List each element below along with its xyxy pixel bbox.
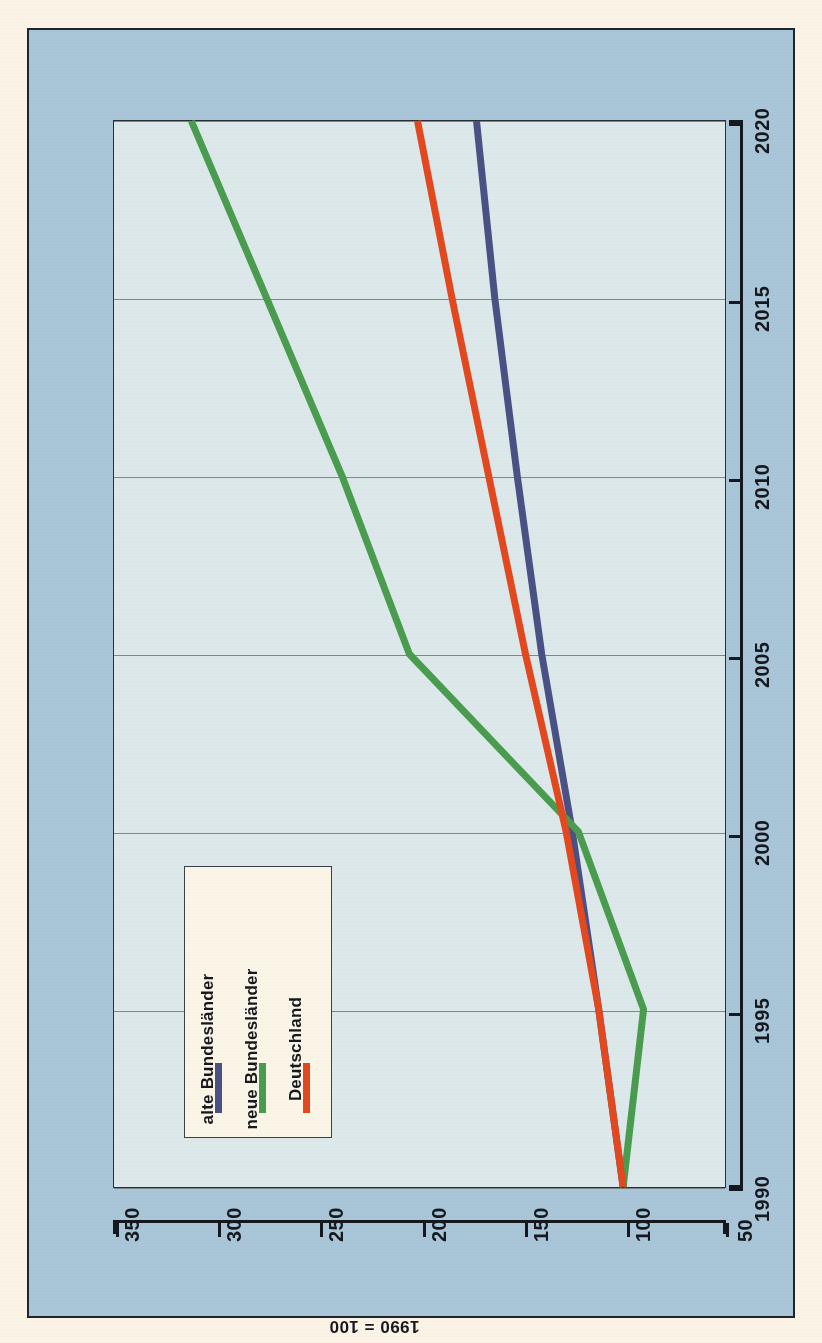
value-axis-tick (525, 1223, 528, 1237)
legend-label: alte Bundesländer (198, 974, 218, 1125)
year-axis-ticklabel: 2000 (751, 820, 774, 867)
value-axis-tick (423, 1223, 426, 1237)
year-axis-tick (729, 835, 743, 838)
value-axis-tick (116, 1223, 119, 1237)
year-axis-ticklabel: 1990 (751, 1176, 774, 1223)
gridline (114, 1188, 725, 1189)
value-axis-ticklabel: 350 (121, 1207, 144, 1242)
legend-item[interactable]: neue Bundesländer (241, 881, 283, 1125)
year-axis-tick (729, 123, 743, 126)
year-axis (729, 120, 743, 1188)
value-axis-tick (320, 1223, 323, 1237)
legend-item[interactable]: alte Bundesländer (197, 881, 239, 1125)
value-axis-tick (627, 1223, 630, 1237)
scanned-page: 35030025020015010050 1990 = 100 19901995… (0, 0, 822, 1343)
value-axis-ticklabel: 150 (530, 1207, 553, 1242)
value-axis-tick (726, 1223, 729, 1237)
year-axis-ticklabel: 2020 (751, 108, 774, 155)
year-axis-ticklabel: 2005 (751, 642, 774, 689)
legend-item[interactable]: Deutschland (285, 881, 327, 1125)
value-axis-title: 1990 = 100 (329, 1316, 420, 1336)
year-axis-tick (729, 301, 743, 304)
year-axis-ticklabel: 2015 (751, 286, 774, 333)
year-axis-ticklabel: 1995 (751, 998, 774, 1045)
value-axis-ticklabel: 250 (325, 1207, 348, 1242)
legend: alte Bundesländerneue BundesländerDeutsc… (184, 866, 332, 1138)
value-axis-ticklabel: 50 (734, 1219, 757, 1242)
value-axis-ticklabel: 100 (632, 1207, 655, 1242)
chart-frame: 35030025020015010050 1990 = 100 19901995… (27, 28, 795, 1318)
value-axis-ticklabel: 200 (428, 1207, 451, 1242)
year-axis-tick (729, 479, 743, 482)
year-axis-tick (729, 1188, 743, 1191)
legend-label: neue Bundesländer (242, 968, 262, 1129)
series-line (418, 121, 624, 1187)
year-axis-tick (729, 657, 743, 660)
year-axis-tick (729, 1013, 743, 1016)
legend-label: Deutschland (286, 997, 306, 1101)
value-axis-ticklabel: 300 (223, 1207, 246, 1242)
year-axis-ticklabel: 2010 (751, 464, 774, 511)
value-axis-tick (218, 1223, 221, 1237)
